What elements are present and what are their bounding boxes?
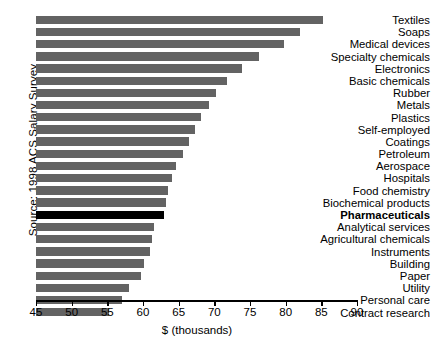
bar-instruments bbox=[36, 247, 150, 255]
category-label: Self-employed bbox=[258, 124, 432, 136]
category-label: Specialty chemicals bbox=[258, 51, 432, 63]
horizontal-bar-chart: Source: 1998 ACS Salary Survey TextilesS… bbox=[0, 0, 434, 350]
bar-aerospace bbox=[36, 162, 176, 170]
bar-self-employed bbox=[36, 125, 195, 133]
x-axis-line bbox=[36, 300, 358, 302]
category-label: Pharmaceuticals bbox=[258, 209, 432, 221]
bar-coatings bbox=[36, 137, 189, 145]
bar-hospitals bbox=[36, 174, 172, 182]
bar-building bbox=[36, 259, 144, 267]
x-axis-tick-label: 65 bbox=[159, 306, 199, 318]
category-label: Instruments bbox=[258, 246, 432, 258]
category-label: Basic chemicals bbox=[258, 75, 432, 87]
x-axis-tick-label: 85 bbox=[301, 306, 341, 318]
category-label-column: TextilesSoapsMedical devicesSpecialty ch… bbox=[258, 14, 432, 300]
category-label: Food chemistry bbox=[258, 185, 432, 197]
category-label: Metals bbox=[258, 99, 432, 111]
bar-biochemical-products bbox=[36, 198, 166, 206]
category-label: Plastics bbox=[258, 112, 432, 124]
bar-food-chemistry bbox=[36, 186, 168, 194]
category-label: Rubber bbox=[258, 87, 432, 99]
bar-pharmaceuticals bbox=[36, 211, 164, 219]
bar-electronics bbox=[36, 64, 242, 72]
category-label: Analytical services bbox=[258, 221, 432, 233]
x-axis-tick-label: 60 bbox=[123, 306, 163, 318]
category-label: Agricultural chemicals bbox=[258, 233, 432, 245]
bar-petroleum bbox=[36, 150, 183, 158]
x-axis-tick-label: 90 bbox=[337, 306, 377, 318]
category-label: Coatings bbox=[258, 136, 432, 148]
category-label: Paper bbox=[258, 270, 432, 282]
category-label: Medical devices bbox=[258, 38, 432, 50]
x-axis-tick-label: 70 bbox=[194, 306, 234, 318]
bar-medical-devices bbox=[36, 40, 284, 48]
category-label: Building bbox=[258, 258, 432, 270]
bar-metals bbox=[36, 101, 209, 109]
x-axis-title: $ (thousands) bbox=[36, 324, 358, 336]
bar-rubber bbox=[36, 89, 216, 97]
x-axis-tick-label: 80 bbox=[266, 306, 306, 318]
x-axis-tick-label: 50 bbox=[52, 306, 92, 318]
bar-specialty-chemicals bbox=[36, 52, 259, 60]
bar-utility bbox=[36, 284, 129, 292]
category-label: Soaps bbox=[258, 26, 432, 38]
x-axis-tick-label: 75 bbox=[230, 306, 270, 318]
bar-paper bbox=[36, 272, 141, 280]
category-label: Utility bbox=[258, 282, 432, 294]
x-axis-tick-label: 55 bbox=[87, 306, 127, 318]
bar-basic-chemicals bbox=[36, 77, 227, 85]
category-label: Textiles bbox=[258, 14, 432, 26]
x-axis-tick-label: 45 bbox=[16, 306, 56, 318]
bar-agricultural-chemicals bbox=[36, 235, 152, 243]
category-label: Electronics bbox=[258, 63, 432, 75]
category-label: Biochemical products bbox=[258, 197, 432, 209]
category-label: Aerospace bbox=[258, 160, 432, 172]
category-label: Petroleum bbox=[258, 148, 432, 160]
bar-plastics bbox=[36, 113, 201, 121]
category-label: Hospitals bbox=[258, 172, 432, 184]
bar-analytical-services bbox=[36, 223, 154, 231]
